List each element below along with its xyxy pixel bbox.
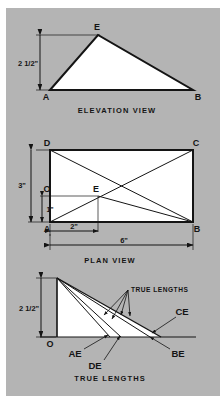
true-lengths-height-dimension-label: 2 1/2"	[19, 304, 40, 313]
plan-vertex-label-d: D	[44, 138, 51, 148]
plan-dimension-label-1in: 1"	[46, 206, 53, 213]
true-lengths-caption: TRUE LENGTHS	[74, 374, 146, 383]
plan-vertex-label-b: B	[194, 224, 201, 234]
elevation-height-dimension-label: 2 1/2"	[18, 59, 39, 68]
plan-view: 3" 1" 2" 6" D C A B E O PLAN VIEW	[18, 138, 201, 265]
elevation-vertex-label-b: B	[195, 92, 202, 102]
plan-dimension-label-6in: 6"	[120, 236, 128, 245]
elevation-view-caption: ELEVATION VIEW	[78, 106, 156, 115]
true-lengths-origin-label-o: O	[46, 339, 53, 349]
true-lengths-leader-4	[128, 290, 130, 316]
technical-drawing: 2 1/2" A E B ELEVATION VIEW 3"	[0, 0, 220, 396]
plan-dimension-label-3in: 3"	[18, 181, 26, 190]
elevation-triangle	[50, 35, 193, 90]
true-length-label-ae: AE	[68, 348, 81, 359]
plan-vertex-label-a: A	[44, 224, 51, 234]
true-length-label-de: DE	[88, 360, 101, 371]
true-lengths-view: 2 1/2" TRUE LENGTHS AE DE BE CE O TRUE L…	[19, 278, 196, 383]
true-lengths-annotation-label: TRUE LENGTHS	[131, 286, 188, 293]
true-length-label-ce: CE	[175, 306, 188, 317]
plan-vertex-label-e: E	[93, 184, 99, 194]
leader-ce	[152, 317, 176, 333]
leader-be	[150, 337, 170, 349]
elevation-vertex-label-e: E	[94, 22, 100, 32]
plan-origin-label-o: O	[43, 184, 50, 194]
plan-dimension-label-2in: 2"	[70, 222, 78, 231]
plan-view-caption: PLAN VIEW	[84, 256, 136, 265]
elevation-view: 2 1/2" A E B ELEVATION VIEW	[18, 22, 202, 115]
leader-de	[104, 336, 120, 360]
elevation-vertex-label-a: A	[43, 92, 50, 102]
figure-page: 2 1/2" A E B ELEVATION VIEW 3"	[0, 0, 220, 396]
plan-vertex-label-c: C	[193, 138, 200, 148]
true-length-label-be: BE	[171, 348, 184, 359]
